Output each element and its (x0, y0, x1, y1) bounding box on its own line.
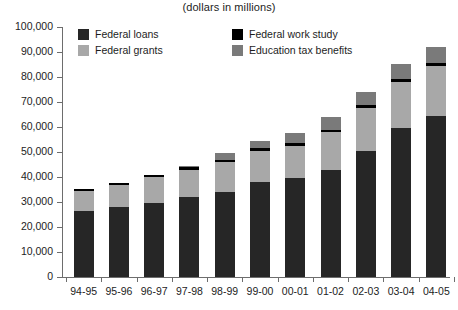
x-axis-tick (172, 277, 173, 282)
stacked-bar-chart: (dollars in millions) Federal loans Fede… (0, 0, 458, 310)
x-axis-label: 01-02 (313, 285, 348, 297)
y-axis-tick-label: 40,000 (21, 170, 53, 182)
bar-segment[interactable] (285, 178, 305, 277)
x-axis-label: 03-04 (383, 285, 418, 297)
y-axis-tick: 0 (57, 277, 62, 278)
x-axis-label: 97-98 (172, 285, 207, 297)
chart-subtitle: (dollars in millions) (0, 1, 458, 13)
y-axis-tick: 20,000 (57, 227, 62, 228)
y-axis-tick: 80,000 (57, 77, 62, 78)
bar-segment[interactable] (356, 151, 376, 277)
y-axis-tick: 100,000 (57, 27, 62, 28)
bar-segment[interactable] (285, 133, 305, 143)
bar-segment[interactable] (74, 191, 94, 211)
bar-segment[interactable] (426, 116, 446, 277)
y-axis-tick-label: 60,000 (21, 120, 53, 132)
bar-segment[interactable] (144, 177, 164, 203)
bar-segment[interactable] (356, 92, 376, 106)
bar-segment[interactable] (250, 182, 270, 277)
bar-segment[interactable] (321, 132, 341, 170)
x-axis-tick (242, 277, 243, 282)
x-axis-tick (101, 277, 102, 282)
bar-segment[interactable] (391, 128, 411, 277)
stacked-bar[interactable] (109, 183, 129, 278)
y-axis-tick: 30,000 (57, 202, 62, 203)
bar-segment[interactable] (144, 203, 164, 277)
y-axis-tick-label: 100,000 (15, 20, 53, 32)
x-axis-label: 99-00 (242, 285, 277, 297)
bar-segment[interactable] (74, 211, 94, 277)
bar-segment[interactable] (250, 141, 270, 149)
bar-segment[interactable] (109, 185, 129, 208)
y-axis-line (62, 27, 63, 277)
bar-segment[interactable] (215, 192, 235, 277)
stacked-bar[interactable] (74, 189, 94, 277)
y-axis-tick-label: 10,000 (21, 245, 53, 257)
x-axis-label: 00-01 (278, 285, 313, 297)
x-axis-tick (278, 277, 279, 282)
x-axis-tick (348, 277, 349, 282)
bar-segment[interactable] (179, 197, 199, 277)
stacked-bar[interactable] (321, 117, 341, 277)
y-axis-tick: 50,000 (57, 152, 62, 153)
x-axis-label: 95-96 (101, 285, 136, 297)
bar-segment[interactable] (250, 151, 270, 182)
bar-segment[interactable] (109, 207, 129, 277)
y-axis-tick-label: 80,000 (21, 70, 53, 82)
bar-segment[interactable] (321, 170, 341, 278)
bar-segment[interactable] (426, 47, 446, 63)
x-axis-tick (137, 277, 138, 282)
bar-segment[interactable] (215, 162, 235, 192)
stacked-bar[interactable] (144, 175, 164, 277)
bar-segment[interactable] (391, 82, 411, 128)
x-axis-line (62, 277, 450, 278)
plot-area: 010,00020,00030,00040,00050,00060,00070,… (62, 27, 450, 277)
y-axis-tick-label: 70,000 (21, 95, 53, 107)
bar-segment[interactable] (179, 170, 199, 198)
bar-segment[interactable] (285, 146, 305, 179)
y-axis-tick-label: 0 (47, 270, 53, 282)
x-axis-tick (207, 277, 208, 282)
x-axis-tick (454, 277, 455, 282)
y-axis-tick: 90,000 (57, 52, 62, 53)
y-axis-tick-label: 50,000 (21, 145, 53, 157)
bar-segment[interactable] (391, 64, 411, 79)
x-axis-label: 98-99 (207, 285, 242, 297)
stacked-bar[interactable] (356, 92, 376, 278)
bar-segment[interactable] (321, 117, 341, 130)
x-axis-tick (383, 277, 384, 282)
x-axis-tick (66, 277, 67, 282)
x-axis-label: 96-97 (137, 285, 172, 297)
x-axis-label: 04-05 (419, 285, 454, 297)
y-axis-tick: 10,000 (57, 252, 62, 253)
x-axis-tick (313, 277, 314, 282)
stacked-bar[interactable] (426, 47, 446, 278)
bar-segment[interactable] (356, 108, 376, 151)
stacked-bar[interactable] (215, 153, 235, 277)
bar-segment[interactable] (426, 66, 446, 116)
y-axis-tick-label: 30,000 (21, 195, 53, 207)
y-axis-tick: 40,000 (57, 177, 62, 178)
stacked-bar[interactable] (250, 141, 270, 277)
x-axis-label: 02-03 (348, 285, 383, 297)
y-axis-tick-label: 20,000 (21, 220, 53, 232)
stacked-bar[interactable] (391, 64, 411, 277)
x-axis-tick (419, 277, 420, 282)
y-axis-tick: 60,000 (57, 127, 62, 128)
y-axis-tick-label: 90,000 (21, 45, 53, 57)
stacked-bar[interactable] (179, 166, 199, 277)
stacked-bar[interactable] (285, 133, 305, 277)
x-axis-label: 94-95 (66, 285, 101, 297)
y-axis-tick: 70,000 (57, 102, 62, 103)
